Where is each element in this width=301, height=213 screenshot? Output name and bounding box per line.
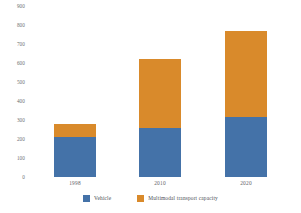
x-axis: 1998 2010 2020 (28, 177, 296, 191)
bar-group-1998[interactable] (54, 124, 96, 177)
y-axis-tick-label: 100 (17, 155, 25, 161)
stacked-bar-chart: 900 800 700 600 500 400 300 200 100 0 (0, 0, 301, 213)
legend-item-vehicle[interactable]: Vehicle (83, 195, 111, 202)
bar-segment-vehicle[interactable] (54, 137, 96, 177)
y-axis-tick-label: 400 (17, 98, 25, 104)
y-axis-tick-label: 600 (17, 60, 25, 66)
bars-layer (28, 6, 296, 177)
bar-segment-vehicle[interactable] (225, 117, 267, 177)
bar-segment-multimodal[interactable] (225, 31, 267, 117)
legend-swatch-icon (137, 195, 144, 202)
plot-area (28, 6, 296, 177)
y-axis-tick-label: 0 (22, 174, 25, 180)
y-axis-tick-label: 800 (17, 22, 25, 28)
bar-segment-multimodal[interactable] (139, 59, 181, 127)
legend-item-label: Vehicle (94, 195, 111, 202)
bar-segment-multimodal[interactable] (54, 124, 96, 137)
y-axis-tick-label: 700 (17, 41, 25, 47)
y-axis: 900 800 700 600 500 400 300 200 100 0 (0, 0, 28, 183)
bar-segment-vehicle[interactable] (139, 128, 181, 177)
bar-group-2020[interactable] (225, 31, 267, 177)
x-axis-tick-label-1998: 1998 (69, 180, 81, 187)
x-axis-tick-label-2020: 2020 (240, 180, 252, 187)
legend-item-multimodal[interactable]: Multimodal transport capacity (137, 195, 218, 202)
y-axis-tick-label: 200 (17, 136, 25, 142)
y-axis-tick-label: 300 (17, 117, 25, 123)
x-axis-tick-label-2010: 2010 (154, 180, 166, 187)
y-axis-tick-label: 900 (17, 3, 25, 9)
y-axis-tick-label: 500 (17, 79, 25, 85)
legend-item-label: Multimodal transport capacity (148, 195, 218, 202)
bar-group-2010[interactable] (139, 59, 181, 177)
chart-legend: Vehicle Multimodal transport capacity (0, 192, 301, 204)
legend-swatch-icon (83, 195, 90, 202)
